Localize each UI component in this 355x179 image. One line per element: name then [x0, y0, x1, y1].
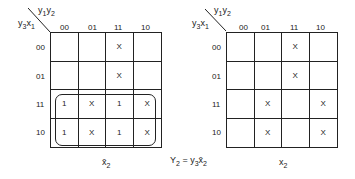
cell [227, 62, 255, 91]
kmap-grid: X X X X X X [226, 32, 338, 148]
col-header: 11 [114, 23, 122, 32]
col-header: 00 [60, 23, 69, 32]
row-header: 10 [212, 128, 221, 137]
kmap-left: y1y2 y3x1 00 01 11 10 00 01 11 10 X X 1 … [0, 0, 175, 179]
row-header: 01 [36, 72, 45, 81]
cell [134, 33, 162, 62]
cell: X [255, 90, 283, 119]
grouping-loop [55, 94, 156, 146]
cell: X [255, 119, 283, 148]
cell [310, 33, 338, 62]
col-header: 10 [316, 23, 325, 32]
cell: X [282, 33, 310, 62]
col-header: 00 [239, 23, 248, 32]
cell: X [106, 62, 134, 91]
cell [51, 33, 79, 62]
col-header: 10 [141, 23, 150, 32]
kmap-right: y1y2 y3x1 00 01 11 10 00 01 11 10 X X X … [175, 0, 355, 179]
cell [227, 119, 255, 148]
row-var-label: y3x1 [192, 18, 209, 30]
map-caption: x2 [279, 157, 287, 169]
cell [51, 62, 79, 91]
row-header: 00 [212, 43, 221, 52]
cell [282, 90, 310, 119]
cell [79, 33, 107, 62]
col-header: 11 [290, 23, 298, 32]
cell [227, 33, 255, 62]
cell [134, 62, 162, 91]
cell [310, 62, 338, 91]
cell [255, 62, 283, 91]
row-var-label: y3x1 [18, 18, 35, 30]
col-var-label: y1y2 [214, 5, 231, 17]
cell: X [310, 90, 338, 119]
row-header: 10 [36, 128, 45, 137]
row-header: 01 [212, 72, 221, 81]
cell [282, 119, 310, 148]
col-header: 01 [261, 23, 270, 32]
cell: X [282, 62, 310, 91]
cell: X [310, 119, 338, 148]
row-header: 11 [212, 100, 220, 109]
col-header: 01 [88, 23, 97, 32]
cell [255, 33, 283, 62]
map-caption: x̄2 [102, 157, 110, 169]
row-header: 11 [36, 100, 44, 109]
row-header: 00 [36, 43, 45, 52]
col-var-label: y1y2 [38, 5, 55, 17]
cell [227, 90, 255, 119]
cell [79, 62, 107, 91]
cell: X [106, 33, 134, 62]
